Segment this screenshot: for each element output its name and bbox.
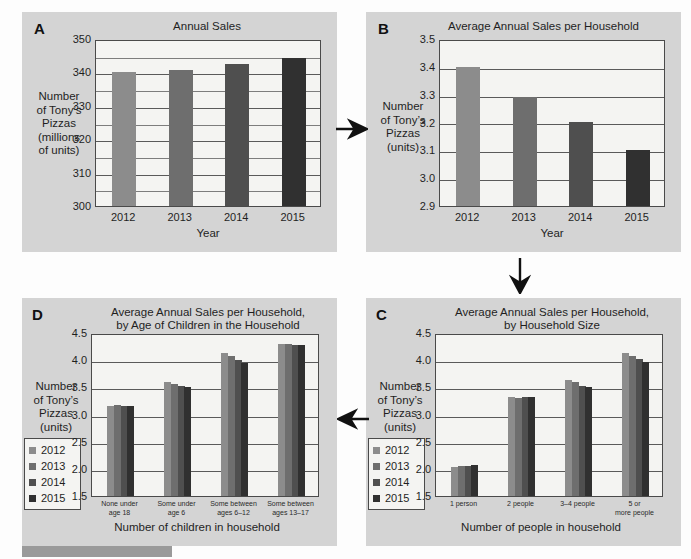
bottom-accent-bar	[22, 546, 172, 557]
arrow-a-to-b-icon	[336, 118, 368, 140]
x-tick-label: 2015	[265, 211, 322, 223]
x-tick-label: 2013	[496, 211, 553, 223]
y-tick-label: 4.0	[51, 354, 87, 366]
title-line: by Household Size	[428, 319, 676, 332]
panel-d: D Average Annual Sales per Household, by…	[22, 298, 337, 546]
legend-swatch-icon	[29, 447, 36, 454]
panel-d-xlabel: Number of children in household	[72, 521, 322, 533]
title-line: Average Annual Sales per Household,	[84, 306, 332, 319]
panel-a-xlabel: Year	[95, 227, 321, 239]
y-tick-label: 2.5	[395, 436, 431, 448]
bar	[513, 97, 537, 206]
y-tick-label: 350	[53, 33, 91, 45]
y-tick-label: 320	[53, 133, 91, 145]
panel-b: B Average Annual Sales per Household Num…	[366, 12, 681, 252]
legend-swatch-icon	[373, 479, 380, 486]
bar	[642, 362, 649, 496]
bar	[528, 397, 535, 496]
legend-swatch-icon	[29, 479, 36, 486]
ylabel-line: (units)	[368, 421, 432, 435]
y-tick-label: 3.5	[395, 381, 431, 393]
panel-a: A Annual Sales Number of Tony’s Pizzas (…	[22, 12, 337, 252]
panel-d-label: D	[32, 306, 43, 323]
legend-label: 2014	[385, 476, 409, 488]
bar	[456, 67, 480, 206]
x-tick-line: ages 13–17	[256, 509, 325, 518]
x-tick-label: 2012	[439, 211, 496, 223]
bar	[471, 465, 478, 496]
y-tick-label: 3.4	[397, 61, 435, 73]
x-tick-label: 2013	[152, 211, 209, 223]
x-tick-label: 5 ormore people	[600, 500, 669, 517]
panel-b-xlabel: Year	[439, 227, 665, 239]
y-tick-label: 2.0	[51, 463, 87, 475]
ylabel-line: Pizzas	[370, 127, 436, 141]
y-tick-label: 330	[53, 100, 91, 112]
panel-a-label: A	[34, 20, 45, 37]
y-tick-label: 3.5	[51, 381, 87, 393]
x-tick-label: 2015	[609, 211, 666, 223]
panel-b-title: Average Annual Sales per Household	[416, 20, 671, 33]
bar	[626, 150, 650, 206]
y-tick-label: 310	[53, 167, 91, 179]
legend-label: 2014	[41, 476, 65, 488]
panel-a-title: Annual Sales	[92, 20, 322, 33]
ylabel-line: Number	[370, 100, 436, 114]
arrow-b-to-c-icon	[509, 258, 531, 294]
gridline	[96, 208, 320, 209]
y-tick-label: 4.5	[395, 327, 431, 339]
y-tick-label: 4.5	[51, 327, 87, 339]
gridline	[440, 208, 664, 209]
y-tick-label: 3.3	[397, 89, 435, 101]
y-tick-label: 3.0	[397, 172, 435, 184]
y-tick-label: 2.9	[397, 200, 435, 212]
title-line: Average Annual Sales per Household,	[428, 306, 676, 319]
panel-b-label: B	[378, 20, 389, 37]
y-tick-label: 340	[53, 66, 91, 78]
x-tick-line: 5 or	[600, 500, 669, 509]
legend-swatch-icon	[29, 463, 36, 470]
gridline	[436, 498, 662, 499]
y-tick-label: 3.5	[397, 33, 435, 45]
y-tick-label: 3.2	[397, 117, 435, 129]
ylabel-line: Pizzas	[26, 117, 92, 131]
legend-item[interactable]: 2014	[29, 474, 75, 490]
ylabel-line: of Tony’s	[368, 394, 432, 408]
bar	[225, 64, 249, 206]
legend-swatch-icon	[373, 463, 380, 470]
panel-b-plot-area	[439, 40, 665, 207]
x-tick-label: 2012	[95, 211, 152, 223]
bar	[585, 387, 592, 496]
legend-item[interactable]: 2014	[373, 474, 419, 490]
title-line: by Age of Children in the Household	[84, 319, 332, 332]
panel-a-plot-area	[95, 40, 321, 207]
y-tick-label: 2.0	[395, 463, 431, 475]
panel-d-title: Average Annual Sales per Household, by A…	[84, 306, 332, 332]
bar	[241, 363, 248, 496]
ylabel-line: of Tony’s	[24, 394, 88, 408]
legend-swatch-icon	[373, 447, 380, 454]
y-tick-label: 3.0	[395, 409, 431, 421]
bar	[169, 70, 193, 206]
gridline	[96, 41, 320, 42]
y-tick-label: 1.5	[395, 490, 431, 502]
x-tick-line: Some between	[256, 500, 325, 509]
panel-c-label: C	[376, 306, 387, 323]
panel-c-plot-area	[435, 334, 663, 497]
legend-swatch-icon	[373, 495, 380, 502]
y-tick-label: 1.5	[51, 490, 87, 502]
ylabel-line: (units)	[24, 421, 88, 435]
ylabel-line: of units)	[26, 144, 92, 158]
arrow-c-to-d-icon	[337, 408, 369, 430]
x-tick-line: more people	[600, 509, 669, 518]
y-tick-label: 300	[53, 200, 91, 212]
y-tick-label: 4.0	[395, 354, 431, 366]
y-tick-label: 2.5	[51, 436, 87, 448]
y-tick-label: 3.0	[51, 409, 87, 421]
panel-c: C Average Annual Sales per Household, by…	[366, 298, 681, 546]
y-tick-label: 3.1	[397, 144, 435, 156]
gridline	[436, 335, 662, 336]
gridline	[440, 41, 664, 42]
legend-swatch-icon	[29, 495, 36, 502]
bar	[184, 387, 191, 496]
